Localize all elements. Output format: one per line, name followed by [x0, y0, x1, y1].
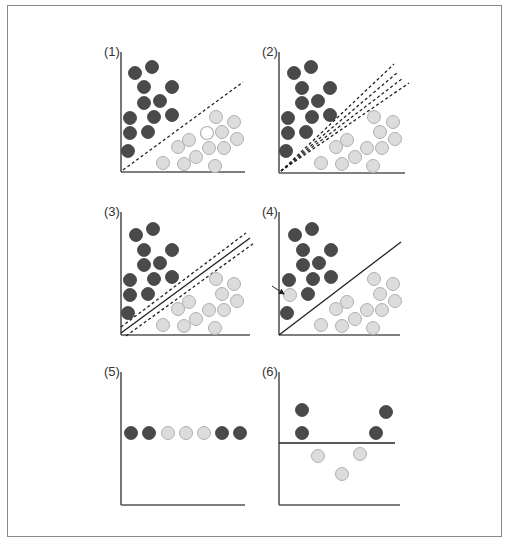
light-point: [218, 304, 231, 317]
light-point: [389, 133, 402, 146]
dark-point: [307, 273, 320, 286]
dark-point: [147, 223, 160, 236]
light-point: [180, 427, 193, 440]
light-point: [231, 295, 244, 308]
light-point: [315, 157, 328, 170]
light-point: [218, 142, 231, 155]
dark-point: [154, 257, 167, 270]
light-point: [387, 278, 400, 291]
light-point: [178, 158, 191, 171]
dark-point: [296, 82, 309, 95]
dark-point: [142, 126, 155, 139]
dark-point: [129, 67, 142, 80]
light-point: [349, 313, 362, 326]
dark-point: [312, 95, 325, 108]
light-point: [203, 304, 216, 317]
light-point: [209, 322, 222, 335]
scatter-panels: [0, 0, 510, 543]
dark-point: [325, 271, 338, 284]
dark-point: [280, 145, 293, 158]
dark-point: [148, 273, 161, 286]
dark-point: [143, 427, 156, 440]
dark-point: [324, 109, 337, 122]
dark-point: [138, 244, 151, 257]
dark-point: [234, 427, 247, 440]
dark-point: [122, 307, 135, 320]
light-point: [209, 160, 222, 173]
dark-point: [166, 244, 179, 257]
light-point: [368, 111, 381, 124]
light-point: [376, 304, 389, 317]
dark-point: [142, 288, 155, 301]
dark-point: [296, 97, 309, 110]
dark-point: [305, 61, 318, 74]
dark-point: [380, 406, 393, 419]
light-point: [172, 303, 185, 316]
light-point: [374, 288, 387, 301]
dark-point: [296, 427, 309, 440]
dark-point: [288, 67, 301, 80]
light-point: [178, 320, 191, 333]
light-point: [367, 322, 380, 335]
light-point: [354, 448, 367, 461]
dark-point: [370, 427, 383, 440]
dark-point: [297, 244, 310, 257]
dark-point: [216, 427, 229, 440]
light-point: [228, 116, 241, 129]
light-point: [336, 158, 349, 171]
dark-point: [124, 274, 137, 287]
light-point: [216, 288, 229, 301]
dark-point: [282, 127, 295, 140]
light-point: [216, 126, 229, 139]
dark-point: [166, 271, 179, 284]
svm-figure: (1) (2) (3) (4) (5) (6): [0, 0, 510, 543]
dark-point: [282, 112, 295, 125]
light-point: [361, 304, 374, 317]
dark-point: [148, 111, 161, 124]
light-point: [210, 273, 223, 286]
light-point: [203, 142, 216, 155]
dark-point: [138, 97, 151, 110]
light-point: [367, 160, 380, 173]
new-point: [201, 127, 214, 140]
light-point: [228, 278, 241, 291]
light-point: [374, 126, 387, 139]
light-point: [210, 111, 223, 124]
light-point: [312, 450, 325, 463]
light-point: [284, 289, 297, 302]
light-point: [172, 141, 185, 154]
dark-point: [146, 61, 159, 74]
dark-point: [122, 145, 135, 158]
dark-point: [124, 289, 137, 302]
dark-point: [130, 229, 143, 242]
light-point: [315, 319, 328, 332]
dark-point: [325, 244, 338, 257]
dark-point: [324, 82, 337, 95]
dark-point: [166, 81, 179, 94]
dark-point: [138, 81, 151, 94]
light-point: [330, 141, 343, 154]
dark-point: [166, 109, 179, 122]
light-point: [349, 151, 362, 164]
dark-point: [289, 229, 302, 242]
dark-point: [302, 288, 315, 301]
light-point: [162, 427, 175, 440]
dark-point: [306, 223, 319, 236]
dark-point: [154, 95, 167, 108]
light-point: [361, 142, 374, 155]
light-point: [389, 295, 402, 308]
dark-point: [283, 274, 296, 287]
light-point: [157, 157, 170, 170]
dark-point: [296, 404, 309, 417]
light-point: [376, 142, 389, 155]
light-point: [190, 151, 203, 164]
dark-point: [124, 112, 137, 125]
dark-point: [306, 111, 319, 124]
light-point: [190, 313, 203, 326]
light-point: [198, 427, 211, 440]
dark-point: [125, 427, 138, 440]
light-point: [368, 273, 381, 286]
arrow-icon: [272, 286, 284, 294]
light-point: [330, 303, 343, 316]
light-point: [387, 116, 400, 129]
